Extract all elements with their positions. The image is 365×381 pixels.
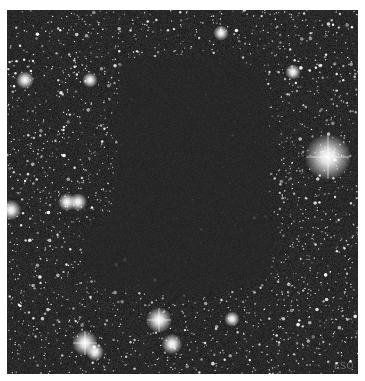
credit-watermark: ESO [334, 361, 354, 371]
star-field-canvas [7, 10, 358, 374]
nebula-photo: ESO [7, 10, 358, 374]
